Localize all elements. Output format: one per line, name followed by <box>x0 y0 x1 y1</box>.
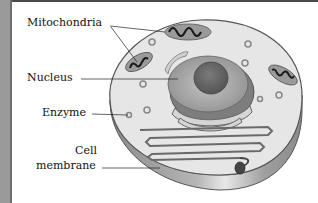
label-cell: Cell <box>75 145 97 157</box>
vesicle-dark <box>235 162 245 174</box>
label-mitochondria: Mitochondria <box>27 17 102 29</box>
mitochondrion-top <box>165 24 211 40</box>
nucleolus <box>194 62 228 94</box>
label-membrane: membrane <box>36 160 96 172</box>
label-enzyme: Enzyme <box>42 107 86 119</box>
cell-diagram <box>0 0 318 203</box>
label-nucleus: Nucleus <box>27 72 73 84</box>
